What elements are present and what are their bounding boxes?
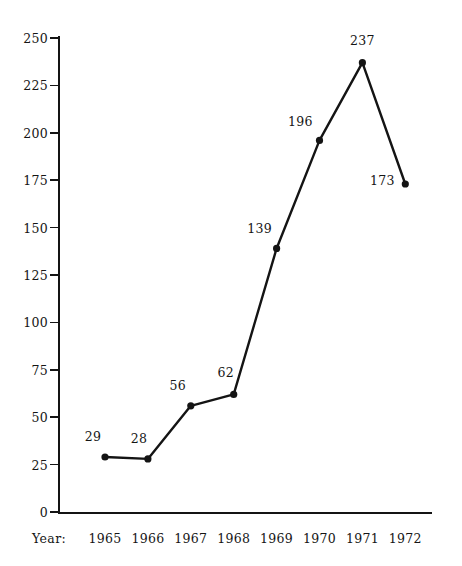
data-point-value-label: 196 <box>271 114 331 129</box>
line-chart: 0255075100125150175200225250 29285662139… <box>0 0 462 566</box>
series-plot <box>0 0 462 566</box>
data-point-value-label: 237 <box>332 33 392 48</box>
data-point-marker <box>101 453 108 460</box>
series-markers <box>101 59 409 462</box>
data-point-marker <box>230 391 237 398</box>
data-point-marker <box>144 455 151 462</box>
data-point-marker <box>316 137 323 144</box>
x-axis-year-row: Year: 19651966196719681969197019711972 <box>0 531 462 551</box>
data-point-value-label: 28 <box>109 431 169 446</box>
x-axis-year-label: 1972 <box>380 531 430 546</box>
data-point-value-label: 173 <box>352 173 412 188</box>
data-point-marker <box>273 245 280 252</box>
x-axis-caption: Year: <box>32 531 66 546</box>
series-line <box>105 63 405 459</box>
data-point-marker <box>187 402 194 409</box>
data-point-value-label: 62 <box>196 365 256 380</box>
data-point-marker <box>359 59 366 66</box>
data-point-value-label: 139 <box>230 221 290 236</box>
